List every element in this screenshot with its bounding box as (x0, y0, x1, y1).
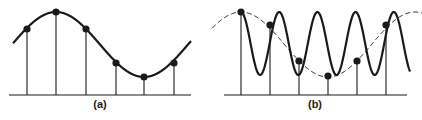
panel-b-aliased-sinusoid (212, 8, 422, 95)
sample-point (140, 73, 147, 80)
sample-point (112, 59, 119, 66)
aliasing-figure (0, 0, 422, 120)
sample-point (237, 8, 244, 15)
sample-point (82, 25, 89, 32)
sample-point (52, 8, 59, 15)
panel-b-alias-dashed-curve (212, 12, 422, 77)
sample-point (382, 21, 389, 28)
sample-point (295, 57, 302, 64)
panel-b-caption: (b) (295, 98, 335, 110)
panel-a-sample-stems (27, 12, 174, 95)
panel-a-sine-curve (13, 12, 191, 77)
panel-b-sample-stems (241, 12, 386, 95)
panel-a-caption: (a) (80, 98, 120, 110)
panel-b-fast-sine-curve (241, 12, 410, 75)
sample-point (23, 25, 30, 32)
sample-point (353, 57, 360, 64)
sample-point (324, 72, 331, 79)
sample-point (266, 21, 273, 28)
sample-point (170, 59, 177, 66)
panel-a-slow-sinusoid (9, 8, 191, 95)
